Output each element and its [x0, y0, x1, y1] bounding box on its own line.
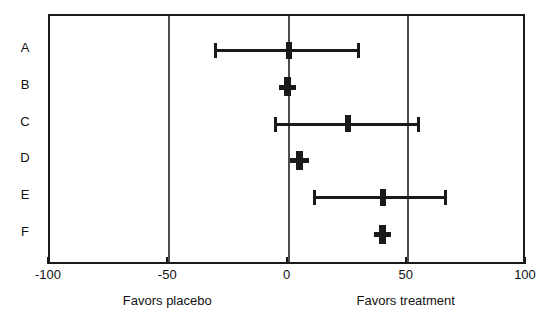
point-estimate-marker: [284, 77, 291, 96]
study-label-c: C: [10, 115, 40, 128]
axis-tick-50: [405, 257, 407, 264]
ci-cap-low: [313, 190, 316, 205]
point-estimate-marker: [296, 151, 303, 170]
forest-plot-figure: ABCDEF -100-50050100 Favors placebo Favo…: [0, 0, 545, 317]
study-label-b: B: [10, 78, 40, 91]
study-label-d: D: [10, 151, 40, 164]
reference-line-50: [407, 16, 409, 262]
ci-cap-low: [214, 43, 217, 58]
favors-placebo-caption: Favors placebo: [67, 293, 267, 308]
study-label-a: A: [10, 41, 40, 54]
ci-cap-low: [274, 117, 277, 132]
axis-tick-0: [286, 257, 288, 264]
point-estimate-marker: [379, 225, 386, 244]
point-estimate-marker: [345, 115, 351, 132]
axis-tick-label-100: 100: [495, 268, 545, 282]
axis-tick-neg50: [166, 257, 168, 264]
axis-tick-label-neg50: -50: [137, 268, 197, 282]
axis-tick-neg100: [47, 257, 49, 264]
axis-tick-label-0: 0: [257, 268, 317, 282]
point-estimate-marker: [286, 42, 292, 59]
ci-cap-high: [417, 117, 420, 132]
point-estimate-marker: [380, 189, 386, 206]
study-label-e: E: [10, 188, 40, 201]
favors-treatment-caption: Favors treatment: [306, 293, 506, 308]
ci-cap-high: [444, 190, 447, 205]
axis-tick-label-neg100: -100: [18, 268, 78, 282]
axis-tick-label-50: 50: [376, 268, 436, 282]
ci-cap-high: [357, 43, 360, 58]
study-label-f: F: [10, 225, 40, 238]
reference-line-neg50: [168, 16, 170, 262]
axis-tick-100: [524, 257, 526, 264]
plot-area: [48, 14, 525, 264]
